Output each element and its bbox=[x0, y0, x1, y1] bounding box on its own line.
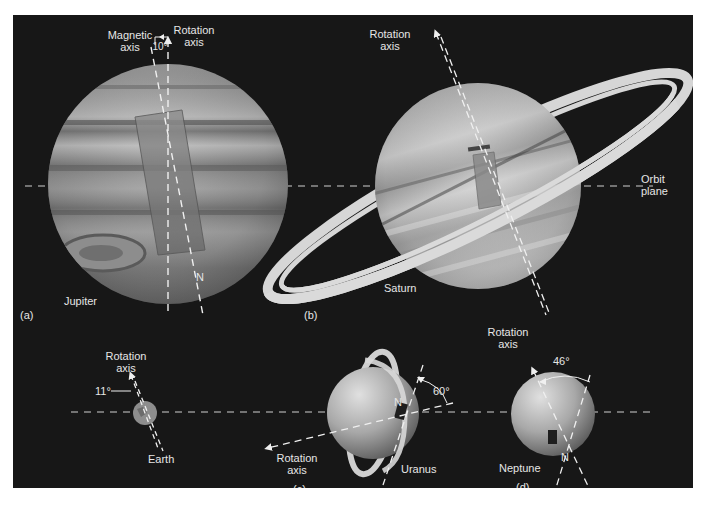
jupiter-name-label: Jupiter bbox=[64, 295, 97, 307]
panel-label-d: (d) bbox=[516, 481, 529, 488]
neptune-name-label: Neptune bbox=[499, 462, 541, 474]
planetary-magnetic-fields-diagram bbox=[13, 15, 693, 488]
saturn-planet bbox=[250, 33, 693, 330]
uranus-tilt-angle: 60° bbox=[433, 385, 450, 397]
panel-label-a: (a) bbox=[20, 309, 33, 321]
neptune-magnetic-field-region bbox=[548, 430, 557, 444]
uranus-name-label: Uranus bbox=[401, 463, 436, 475]
jupiter-tilt-angle: 10° bbox=[151, 41, 169, 53]
uranus-rotation-axis-label: Rotation axis bbox=[272, 452, 322, 476]
jupiter-north-marker: N bbox=[196, 271, 204, 283]
uranus-north-marker: N bbox=[394, 396, 402, 408]
earth-tilt-angle: 11° bbox=[95, 385, 111, 397]
earth-rotation-axis-label: Rotation axis bbox=[101, 350, 151, 374]
saturn-name-label: Saturn bbox=[384, 282, 416, 294]
panel-label-c: (c) bbox=[293, 483, 306, 488]
earth-name-label: Earth bbox=[148, 453, 174, 465]
orbit-plane-label: Orbit plane bbox=[641, 173, 668, 197]
earth-planet bbox=[111, 375, 163, 451]
jupiter-planet bbox=[48, 34, 288, 315]
neptune-tilt-angle: 46° bbox=[553, 355, 570, 367]
neptune-north-marker: N bbox=[561, 451, 569, 463]
jupiter-rotation-axis-label: Rotation axis bbox=[169, 24, 219, 48]
figure-panel: Magnetic axis 10° Rotation axis N Jupite… bbox=[13, 15, 693, 488]
saturn-rotation-axis-label: Rotation axis bbox=[365, 28, 415, 52]
neptune-rotation-axis-label: Rotation axis bbox=[483, 326, 533, 350]
panel-label-b: (b) bbox=[304, 309, 317, 321]
